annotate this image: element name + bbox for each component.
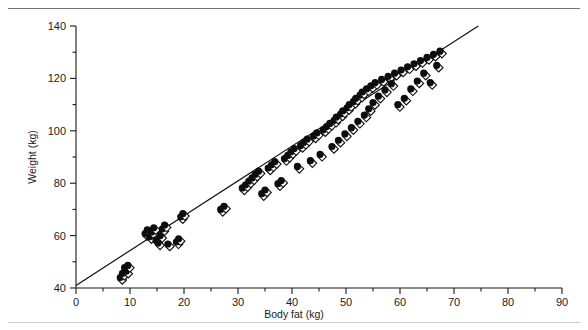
data-point-circle — [278, 177, 285, 184]
x-tick-label: 10 — [124, 296, 136, 308]
data-point-circle — [124, 262, 131, 269]
data-point-circle — [394, 101, 401, 108]
data-point-circle — [220, 203, 227, 210]
x-tick-label: 80 — [502, 296, 514, 308]
data-point-circle — [378, 76, 385, 83]
data-point-circle — [369, 99, 376, 106]
data-point-circle — [316, 151, 323, 158]
data-point-circle — [271, 158, 278, 165]
data-point — [294, 163, 304, 173]
data-point — [348, 124, 358, 134]
data-point-circle — [354, 118, 361, 125]
data-point — [420, 70, 430, 80]
data-point-circle — [417, 57, 424, 64]
data-point-circle — [423, 54, 430, 61]
data-point-circle — [175, 235, 182, 242]
x-axis-tick-labels: 0102030405060708090 — [73, 296, 568, 308]
data-point-circle — [375, 93, 382, 100]
y-tick-label: 140 — [48, 20, 66, 32]
x-tick-label: 60 — [394, 296, 406, 308]
x-tick-label: 30 — [232, 296, 244, 308]
data-point — [328, 143, 338, 153]
data-point — [414, 77, 424, 87]
data-point-circle — [328, 143, 335, 150]
data-point-circle — [304, 136, 311, 143]
x-axis-title: Body fat (kg) — [264, 308, 324, 320]
data-point-circle — [385, 73, 392, 80]
y-axis-tick-labels: 406080100120140 — [48, 20, 66, 294]
data-point-circle — [150, 224, 157, 231]
data-point-circle — [401, 95, 408, 102]
data-point-circle — [313, 129, 320, 136]
data-point-circle — [255, 168, 262, 175]
data-point-circle — [410, 60, 417, 67]
y-axis-title: Weight (kg) — [26, 130, 38, 184]
data-point — [341, 130, 351, 140]
data-point — [307, 157, 317, 167]
data-point — [335, 137, 345, 147]
y-axis-ticks — [70, 26, 76, 288]
data-point-circle — [388, 80, 395, 87]
data-point-circle — [335, 137, 342, 144]
data-point-circle — [436, 48, 443, 55]
data-point-circle — [161, 222, 168, 229]
scatter-plot: 0102030405060708090 406080100120140 Body… — [0, 0, 588, 330]
x-tick-label: 90 — [556, 296, 568, 308]
data-point-circle — [291, 145, 298, 152]
data-point-circle — [294, 163, 301, 170]
data-point — [354, 118, 364, 128]
x-tick-label: 50 — [340, 296, 352, 308]
data-point-circle — [414, 77, 421, 84]
data-point-circle — [365, 105, 372, 112]
data-point — [427, 79, 437, 89]
data-point — [164, 240, 174, 250]
y-tick-label: 80 — [54, 177, 66, 189]
data-point-circle — [341, 130, 348, 137]
data-point-circle — [404, 63, 411, 70]
data-point — [433, 62, 443, 72]
data-point-circle — [179, 210, 186, 217]
data-point — [407, 85, 417, 95]
data-point — [401, 95, 411, 105]
data-point-circle — [433, 62, 440, 69]
x-tick-label: 40 — [286, 296, 298, 308]
y-tick-label: 40 — [54, 282, 66, 294]
x-axis-ticks — [76, 288, 562, 294]
data-point-circle — [348, 124, 355, 131]
data-point-circle — [381, 86, 388, 93]
data-point-circle — [407, 85, 414, 92]
data-point-circle — [361, 111, 368, 118]
y-tick-label: 100 — [48, 125, 66, 137]
data-point-circle — [164, 240, 171, 247]
data-point-circle — [430, 51, 437, 58]
x-tick-label: 20 — [178, 296, 190, 308]
figure-container: 0102030405060708090 406080100120140 Body… — [0, 0, 588, 330]
data-point-circle — [261, 186, 268, 193]
data-points-group — [117, 48, 447, 285]
x-tick-label: 70 — [448, 296, 460, 308]
data-point-circle — [420, 70, 427, 77]
data-point-circle — [391, 70, 398, 77]
data-point — [316, 151, 326, 161]
data-point — [394, 101, 404, 111]
data-point-circle — [372, 79, 379, 86]
y-tick-label: 60 — [54, 230, 66, 242]
data-point — [381, 86, 391, 96]
y-tick-label: 120 — [48, 72, 66, 84]
data-point-circle — [307, 157, 314, 164]
data-point — [388, 80, 398, 90]
data-point-circle — [397, 66, 404, 73]
data-point-circle — [427, 79, 434, 86]
x-tick-label: 0 — [73, 296, 79, 308]
